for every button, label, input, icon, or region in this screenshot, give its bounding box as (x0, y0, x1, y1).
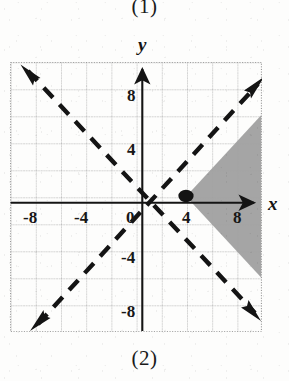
x-tick-label-zero: 0 (126, 209, 135, 226)
x-tick-label-neg8: -8 (23, 209, 37, 226)
x-tick-label-8: 8 (233, 209, 242, 226)
coordinate-plane-plot: -8 -4 0 4 8 8 4 -4 -8 y (10, 62, 262, 332)
y-tick-label-4: 4 (127, 141, 136, 158)
y-axis-label: y (138, 35, 146, 54)
x-tick-label-neg4: -4 (74, 209, 88, 226)
x-axis-label: x (268, 194, 278, 213)
figure-caption-bottom: (2) (0, 343, 289, 373)
y-tick-label-8: 8 (127, 87, 136, 104)
coordinate-plane-svg (10, 62, 262, 332)
x-tick-label-4: 4 (182, 209, 191, 226)
intersection-point-marker (178, 190, 193, 202)
y-tick-label-neg8: -8 (121, 303, 135, 320)
y-tick-label-neg4: -4 (121, 249, 135, 266)
figure-caption-top: (1) (0, 0, 289, 19)
